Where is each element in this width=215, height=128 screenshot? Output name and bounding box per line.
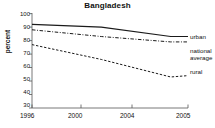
x-axis-ticks — [32, 105, 188, 109]
series-label-rural: rural — [190, 68, 202, 75]
series-line-rural — [32, 45, 188, 77]
series-label-urban: urban — [190, 33, 206, 40]
y-axis-ticks — [29, 14, 32, 108]
chart-plot-area — [0, 0, 215, 128]
series-line-urban — [32, 24, 188, 36]
series-label-national-average-line2: average — [190, 54, 212, 61]
chart-container: Bangladesh percent 100 90 80 70 60 50 40… — [0, 0, 215, 128]
